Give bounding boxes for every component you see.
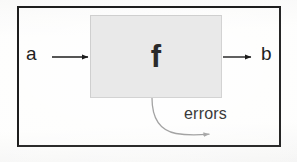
diagram-canvas: f a b errors: [0, 0, 297, 162]
output-label: b: [261, 44, 272, 63]
process-block[interactable]: f: [90, 15, 222, 98]
errors-label: errors: [184, 106, 227, 122]
process-block-label: f: [91, 40, 221, 71]
input-label: a: [26, 44, 37, 63]
